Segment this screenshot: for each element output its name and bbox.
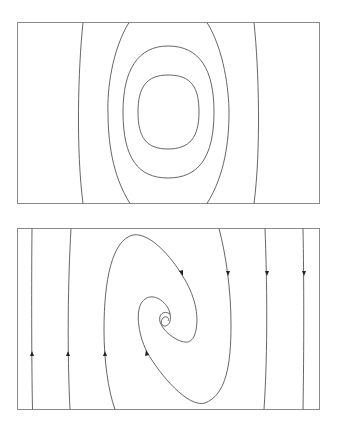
orbit-inner (123, 46, 214, 178)
spiral-outer-left (104, 235, 197, 410)
spiral-outer-right (138, 229, 231, 404)
spiral-inner-arm (160, 312, 178, 340)
orbit-left-outer (78, 23, 83, 204)
phase-portrait-figure (0, 0, 339, 431)
arrow-down-icon (265, 271, 269, 276)
arrow-up-left-icon (145, 350, 149, 356)
trajectory-left-2 (68, 229, 71, 410)
arrow-up-icon (103, 351, 107, 356)
trajectory-left-1 (32, 229, 33, 410)
panel-center (18, 23, 320, 204)
trajectory-right-2 (303, 229, 304, 410)
arrow-down-right-icon (179, 270, 183, 276)
trajectory-right-1 (264, 229, 267, 410)
orbit-innermost (138, 75, 199, 149)
arrow-up-icon (30, 351, 34, 356)
panel-frame-top (18, 23, 320, 204)
panel-spiral (18, 229, 320, 410)
orbit-right-outer (254, 23, 259, 204)
orbit-middle-open (108, 23, 229, 204)
arrow-up-icon (66, 351, 70, 356)
arrow-down-icon (226, 271, 230, 276)
arrow-down-icon (302, 271, 306, 276)
